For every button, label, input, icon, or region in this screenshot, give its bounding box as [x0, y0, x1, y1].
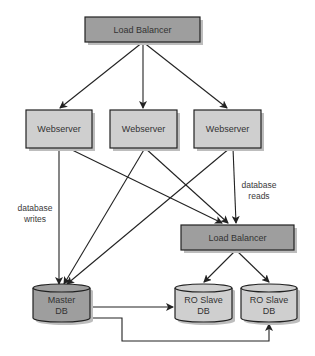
edge-lb-top-to-web-1 — [60, 42, 143, 108]
edge-web-2-to-lb-db — [145, 148, 228, 223]
edge-lb-top-to-web-3 — [143, 42, 227, 108]
architecture-diagram: Load BalancerWebserverWebserverWebserver… — [0, 0, 315, 356]
node-label: Webserver — [206, 124, 249, 134]
diagram-canvas: Load BalancerWebserverWebserverWebserver… — [0, 0, 315, 356]
node-web-1: Webserver — [26, 110, 95, 151]
node-label: Load Balancer — [208, 233, 266, 243]
node-slave-db-1: RO SlaveDB — [175, 284, 235, 325]
reads-label: database reads — [238, 180, 280, 202]
node-lb-top: Load Balancer — [85, 17, 203, 45]
node-label: DB — [263, 306, 276, 316]
node-web-2: Webserver — [110, 110, 180, 151]
edge-web-3-to-lb-db — [233, 148, 236, 223]
node-web-3: Webserver — [194, 110, 264, 151]
edge-web-1-to-lb-db — [68, 148, 222, 223]
node-label: Webserver — [37, 124, 80, 134]
node-label: RO Slave — [250, 295, 289, 305]
node-label: Load Balancer — [113, 25, 171, 35]
node-label: Webserver — [122, 124, 165, 134]
node-label: DB — [197, 306, 210, 316]
edge-web-2-to-master-db — [64, 148, 145, 284]
node-slave-db-2: RO SlaveDB — [241, 284, 300, 325]
node-label: Master — [48, 295, 76, 305]
edge-lb-db-to-slave-db-2 — [236, 250, 269, 282]
edge-web-3-to-master-db — [67, 148, 230, 284]
writes-label: database writes — [14, 203, 56, 225]
node-lb-db: Load Balancer — [181, 225, 297, 253]
node-label: DB — [55, 306, 68, 316]
node-label: RO Slave — [184, 295, 223, 305]
edge-lb-db-to-slave-db-1 — [204, 250, 236, 282]
node-master-db: MasterDB — [33, 284, 93, 325]
